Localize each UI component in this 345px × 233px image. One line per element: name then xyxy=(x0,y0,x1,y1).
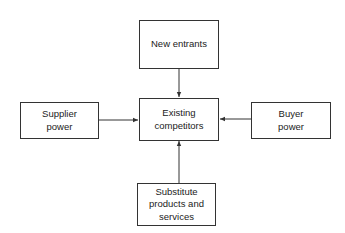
node-buyer-power: Buyer power xyxy=(251,102,331,139)
node-label: Substitute products and services xyxy=(149,186,204,224)
node-label: Supplier power xyxy=(42,108,77,133)
node-label: Existing competitors xyxy=(154,107,203,132)
node-new-entrants: New entrants xyxy=(139,20,219,69)
node-supplier-power: Supplier power xyxy=(20,102,99,139)
node-label: Buyer power xyxy=(278,108,304,133)
node-existing-competitors: Existing competitors xyxy=(139,98,219,141)
node-label: New entrants xyxy=(151,38,207,51)
node-substitutes: Substitute products and services xyxy=(137,183,216,226)
